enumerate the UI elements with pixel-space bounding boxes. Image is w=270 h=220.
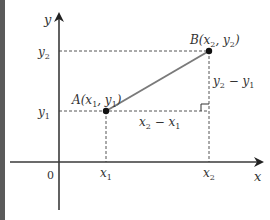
y1-tick-label: y1 — [37, 105, 50, 121]
x2-tick-label: x2 — [203, 166, 215, 182]
diagram-canvas: y x 0 y2 y1 x1 x2 A(x1, y1) B(x2, y2) x2… — [0, 0, 270, 220]
origin-label: 0 — [47, 169, 54, 182]
vertical-difference-label: y2 − y1 — [212, 74, 254, 90]
horizontal-difference-label: x2 − x1 — [139, 115, 180, 131]
point-a — [103, 108, 109, 114]
coordinate-plane: y x 0 y2 y1 x1 x2 A(x1, y1) B(x2, y2) x2… — [0, 0, 270, 220]
y2-tick-label: y2 — [37, 45, 50, 61]
point-a-label: A(x1, y1) — [71, 93, 122, 109]
point-b-label: B(x2, y2) — [189, 33, 240, 49]
y-axis-label: y — [43, 12, 52, 27]
x-axis-label: x — [254, 169, 262, 184]
segment-ab — [106, 51, 209, 111]
x1-tick-label: x1 — [100, 166, 112, 182]
right-angle-marker — [201, 104, 209, 111]
